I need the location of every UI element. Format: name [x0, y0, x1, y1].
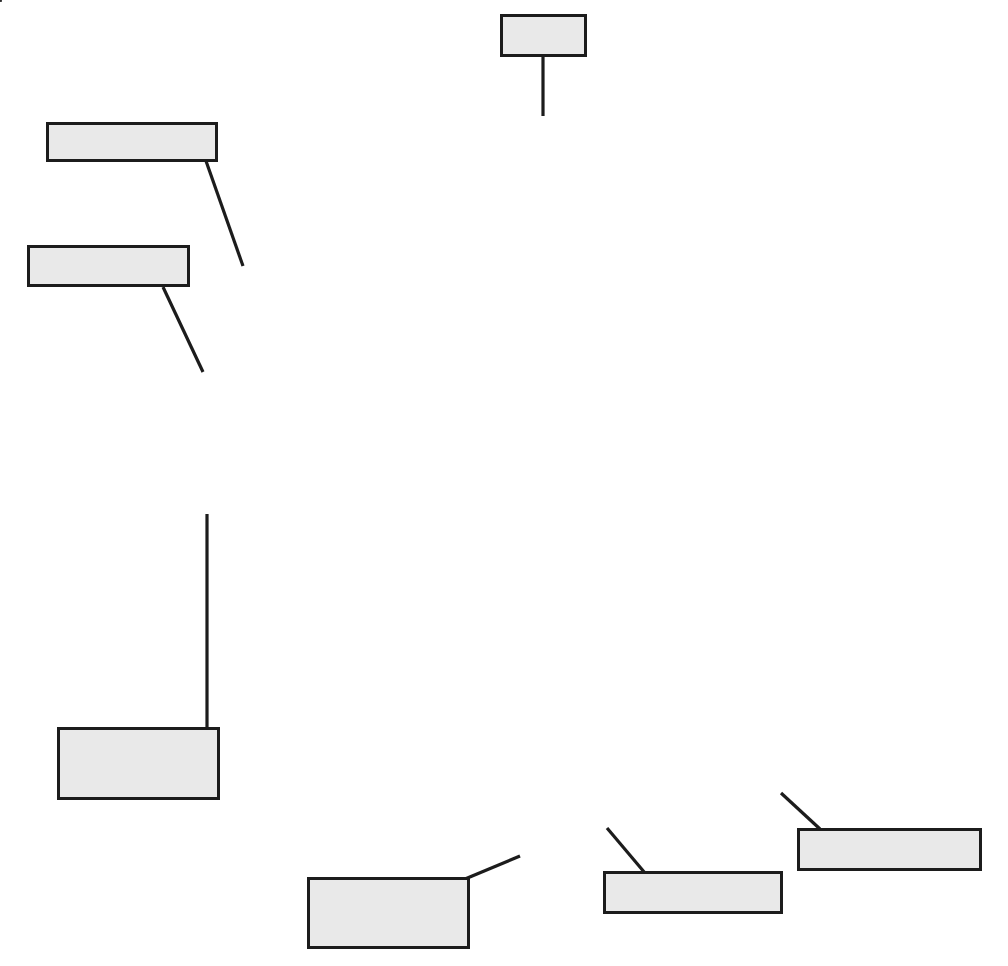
callout-y-value-range-box[interactable]: [46, 122, 218, 162]
callout-x-value-range-box[interactable]: [797, 828, 982, 871]
leader-y-value-range: [206, 161, 243, 266]
callout-y-axis-label-box[interactable]: [27, 245, 190, 287]
callout-y-units-box[interactable]: [57, 727, 220, 800]
callout-title-box[interactable]: [500, 14, 587, 57]
callout-x-axis-label-box[interactable]: [603, 871, 783, 914]
leader-lines: [163, 57, 820, 879]
callout-x-units-box[interactable]: [307, 877, 470, 949]
leader-y-axis-label: [163, 287, 203, 372]
annotated-chart-figure: [0, 0, 1008, 966]
leader-x-units: [465, 856, 520, 879]
leader-x-axis-label: [607, 828, 645, 873]
leader-x-value-range: [781, 793, 820, 829]
